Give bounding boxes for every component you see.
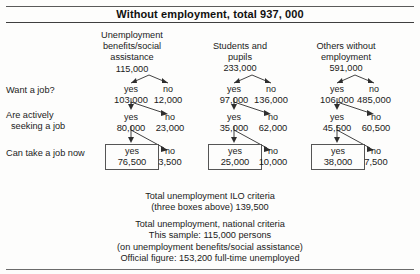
answer-label: no xyxy=(347,84,401,94)
answer-label: no xyxy=(143,146,197,156)
summary-line-5: (on unemployment benefits/social assista… xyxy=(0,242,420,253)
answer-label: no xyxy=(244,84,298,94)
cell-seeking-no-col1: no 23,000 xyxy=(143,112,197,133)
cell-want-job-no-col1: no 12,000 xyxy=(141,84,195,105)
answer-label: no xyxy=(143,112,197,122)
answer-label: no xyxy=(246,112,300,122)
summary-line-2: (three boxes above) 139,500 xyxy=(0,202,420,213)
answer-value: 12,000 xyxy=(141,94,195,105)
answer-value: 23,000 xyxy=(143,122,197,133)
summary-line-1: Total unemployment ILO criteria xyxy=(0,191,420,202)
cell-can-take-no-col3: no 7,500 xyxy=(349,146,403,167)
answer-value: 136,000 xyxy=(244,94,298,105)
branch-arrowhead-yes-col3 xyxy=(337,78,343,83)
summary-line-3: Total unemployment, national criteria xyxy=(0,219,420,230)
cell-can-take-no-col2: no 10,000 xyxy=(246,146,300,167)
answer-value: 10,000 xyxy=(246,156,300,167)
summary-block: Total unemployment ILO criteria (three b… xyxy=(0,191,420,264)
cell-seeking-no-col2: no 62,000 xyxy=(246,112,300,133)
answer-value: 62,000 xyxy=(246,122,300,133)
answer-value: 60,500 xyxy=(349,122,403,133)
cell-want-job-no-col2: no 136,000 xyxy=(244,84,298,105)
answer-value: 3,500 xyxy=(143,156,197,167)
cell-seeking-no-col3: no 60,500 xyxy=(349,112,403,133)
answer-label: no xyxy=(349,146,403,156)
cell-can-take-no-col1: no 3,500 xyxy=(143,146,197,167)
answer-value: 485,000 xyxy=(347,94,401,105)
answer-label: no xyxy=(141,84,195,94)
cell-want-job-no-col3: no 485,000 xyxy=(347,84,401,105)
branch-arrowhead-down-col3-row3 xyxy=(334,137,340,143)
answer-label: no xyxy=(246,146,300,156)
answer-value: 7,500 xyxy=(349,156,403,167)
diagram-page: Without employment, total 937, 000 Unemp… xyxy=(0,0,420,274)
summary-line-6: Official figure: 153,200 full-time unemp… xyxy=(0,253,420,264)
answer-label: no xyxy=(349,112,403,122)
summary-line-4: This sample: 115,000 persons xyxy=(0,230,420,241)
